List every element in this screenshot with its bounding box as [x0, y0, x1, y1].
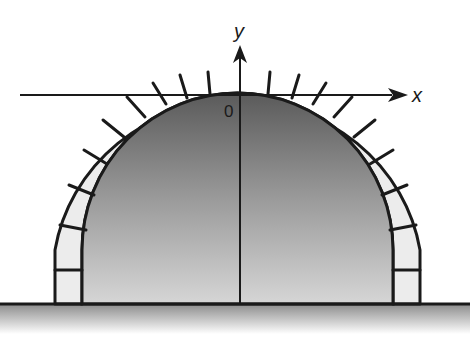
x-axis-label: x [411, 84, 423, 106]
arch-interior [82, 93, 393, 304]
ground [0, 304, 470, 334]
origin-label: 0 [224, 102, 233, 121]
y-axis-label: y [232, 20, 245, 42]
arch-diagram: x y 0 [0, 0, 470, 340]
